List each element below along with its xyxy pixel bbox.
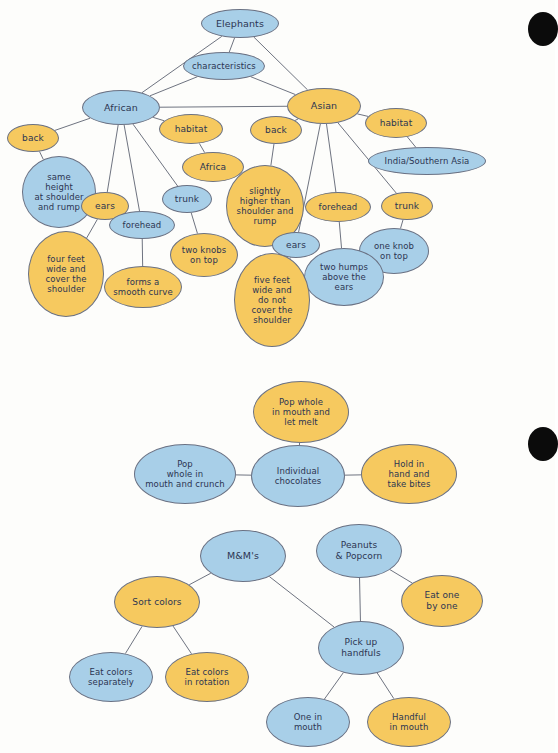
node-afr-back: back [7, 124, 59, 152]
node-handful-mouth: Handful in mouth [367, 697, 451, 747]
node-hold-bites: Hold in hand and take bites [361, 444, 457, 504]
node-asi-forehead: forehead [305, 192, 371, 222]
node-one-in-mouth: One in mouth [266, 697, 350, 747]
node-afr-ears-desc: four feet wide and cover the shoulder [28, 231, 104, 317]
node-asi-habitat: habitat [365, 108, 427, 138]
node-individual: Individual chocolates [251, 445, 345, 507]
node-sort-colors: Sort colors [114, 576, 200, 628]
node-asi-habitat-desc: India/Southern Asia [368, 147, 486, 175]
node-asi-back: back [250, 116, 302, 144]
node-afr-forehead-desc: forms a smooth curve [104, 266, 182, 308]
node-pick-handfuls: Pick up handfuls [318, 621, 404, 675]
node-pop-crunch: Pop whole in mouth and crunch [134, 444, 236, 504]
node-asi-forehead-desc: two humps above the ears [304, 248, 384, 306]
node-peanuts: Peanuts & Popcorn [316, 524, 402, 578]
page-edge-mark-top [528, 12, 558, 46]
node-afr-africa: Africa [182, 152, 244, 182]
node-asi-trunk: trunk [381, 192, 433, 220]
node-afr-trunk: trunk [162, 185, 212, 213]
node-afr-habitat: habitat [159, 114, 223, 144]
node-asian: Asian [287, 88, 361, 124]
node-african: African [82, 90, 160, 125]
node-pop-melt: Pop whole in mouth and let melt [253, 381, 349, 443]
node-afr-back-desc: same height at shoulder and rump [22, 156, 96, 228]
node-asi-ears-desc: five feet wide and do not cover the shou… [234, 253, 310, 347]
node-afr-forehead: forehead [109, 211, 175, 239]
page-edge-mark-middle [528, 427, 558, 461]
node-characteristics: characteristics [183, 52, 265, 80]
node-eat-separate: Eat colors separately [69, 652, 153, 702]
node-afr-trunk-desc: two knobs on top [170, 233, 238, 277]
node-elephants: Elephants [201, 9, 279, 38]
node-mms: M&M's [200, 530, 286, 582]
node-eat-rotation: Eat colors in rotation [165, 652, 249, 702]
node-eat-one: Eat one by one [401, 575, 483, 627]
